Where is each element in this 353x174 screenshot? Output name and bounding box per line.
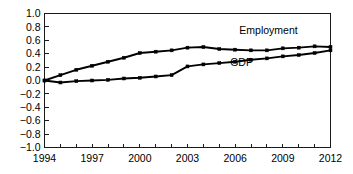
- x-tick-label: 2003: [176, 152, 200, 164]
- data-point-marker: [170, 74, 173, 77]
- data-point-marker: [202, 46, 205, 49]
- x-tick-label: 2000: [128, 152, 152, 164]
- data-point-marker: [297, 54, 300, 57]
- line-chart: −1.0−0.8−0.6−0.4−0.20.00.20.40.60.81.0 1…: [0, 0, 353, 174]
- data-point-marker: [122, 77, 125, 80]
- series-line-employment: [45, 46, 331, 80]
- data-point-marker: [297, 46, 300, 49]
- series-annotation-group: EmploymentGDP: [230, 24, 298, 69]
- data-point-marker: [107, 60, 110, 63]
- y-tick-label: 0.2: [26, 61, 41, 73]
- series-label-employment: Employment: [239, 24, 297, 36]
- data-point-marker: [281, 47, 284, 50]
- x-tick-label: 2006: [223, 152, 247, 164]
- x-tick-label: 2009: [271, 152, 295, 164]
- data-point-marker: [265, 57, 268, 60]
- y-tick-label: 0.4: [26, 47, 41, 59]
- data-point-marker: [218, 48, 221, 51]
- data-point-marker: [122, 56, 125, 59]
- chart-container: −1.0−0.8−0.6−0.4−0.20.00.20.40.60.81.0 1…: [0, 0, 353, 174]
- data-point-marker: [202, 63, 205, 66]
- data-point-marker: [250, 49, 253, 52]
- y-axis-tick-labels: −1.0−0.8−0.6−0.4−0.20.00.20.40.60.81.0: [20, 7, 41, 153]
- data-point-marker: [91, 64, 94, 67]
- data-point-marker: [186, 46, 189, 49]
- data-point-marker: [329, 46, 332, 49]
- x-tick-label: 1997: [80, 152, 104, 164]
- data-point-marker: [75, 68, 78, 71]
- data-point-marker: [107, 78, 110, 81]
- y-tick-label: 1.0: [26, 7, 41, 19]
- data-point-marker: [313, 52, 316, 55]
- series-label-gdp: GDP: [230, 56, 253, 68]
- data-point-marker: [234, 48, 237, 51]
- data-point-marker: [281, 55, 284, 58]
- data-point-marker: [154, 75, 157, 78]
- y-tick-label: −0.8: [20, 128, 41, 140]
- data-series-group: [45, 46, 331, 82]
- data-point-marker: [313, 45, 316, 48]
- x-axis-tick-labels: 1994199720002003200620092012: [33, 152, 343, 164]
- y-tick-label: 0.8: [26, 21, 41, 33]
- data-point-marker: [75, 80, 78, 83]
- data-point-marker: [186, 65, 189, 68]
- y-tick-label: −0.4: [20, 101, 41, 113]
- data-point-marker: [265, 49, 268, 52]
- y-tick-label: 0.6: [26, 34, 41, 46]
- data-point-marker: [43, 79, 46, 82]
- data-point-marker: [138, 76, 141, 79]
- data-point-marker: [329, 49, 332, 52]
- x-tick-label: 1994: [33, 152, 57, 164]
- y-tick-label: −0.2: [20, 88, 41, 100]
- x-tick-label: 2012: [319, 152, 343, 164]
- data-point-marker: [91, 79, 94, 82]
- data-point-marker: [170, 49, 173, 52]
- data-point-marker: [59, 74, 62, 77]
- data-point-marker: [218, 62, 221, 65]
- data-point-marker: [59, 81, 62, 84]
- x-axis-ticks: [45, 144, 331, 148]
- y-tick-label: −0.6: [20, 114, 41, 126]
- data-point-marker: [154, 50, 157, 53]
- data-point-marker: [138, 52, 141, 55]
- data-marker-group: [43, 45, 332, 84]
- y-tick-label: 0.0: [26, 74, 41, 86]
